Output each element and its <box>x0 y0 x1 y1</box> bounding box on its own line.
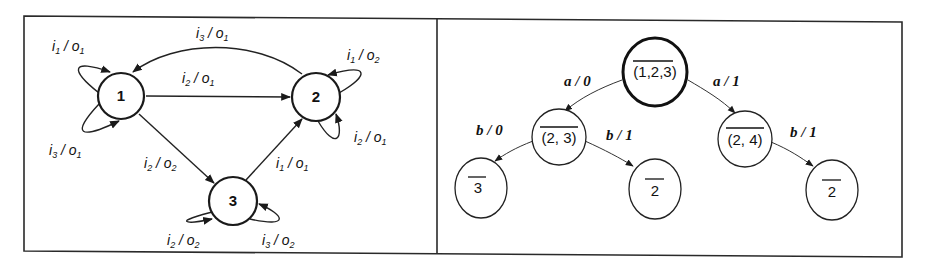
edge-2-to-1 <box>133 48 302 75</box>
edge-label-i2-o1-loop2: i2 / o1 <box>354 129 387 147</box>
edge-label-i1-o1-3to2: i1 / o1 <box>276 155 309 173</box>
edge-label-i2-o2-loop3: i2 / o2 <box>167 232 200 250</box>
tree-edge-label-b1-right: b / 1 <box>790 124 817 140</box>
edge-label-i3-o1-2to1: i3 / o1 <box>196 25 229 43</box>
state-node-1: 1 <box>98 73 144 119</box>
tree-edge-label-a0: a / 0 <box>564 73 591 89</box>
edge-label-i1-o2-loop2: i1 / o2 <box>347 47 380 65</box>
edge-label-i2-o2-1to3: i2 / o2 <box>144 155 177 173</box>
tree-edge-24-to-2b <box>771 142 813 166</box>
edge-label-i2-o1-1to2: i2 / o1 <box>182 70 215 88</box>
state-node-2: 2 <box>292 73 340 121</box>
edge-label-i1-o1-loop1: i1 / o1 <box>52 38 85 56</box>
tree-edge-label-b1-left: b / 1 <box>606 127 633 143</box>
edge-label-i3-o1-loop1: i3 / o1 <box>49 142 82 160</box>
tree-leaf-2b-label: 2 <box>828 183 836 200</box>
state-node-3: 3 <box>209 177 257 225</box>
edge-1-to-2 <box>146 96 290 97</box>
tree-edge-23-to-3 <box>495 141 533 161</box>
tree-node-2-3-label: (2, 3) <box>541 129 576 146</box>
figure-canvas: 1 2 3 i1 / o1 i3 / o1 i2 / o1 i3 / o1 i1… <box>0 0 925 272</box>
state-label-3: 3 <box>229 192 237 209</box>
tree-leaf-2b: 2 <box>806 160 858 220</box>
tree-leaf-3: 3 <box>455 158 507 218</box>
tree-leaf-2a-label: 2 <box>651 182 659 199</box>
distinguishing-tree: (1,2,3) (2, 3) (2, 4) 3 2 <box>455 38 858 220</box>
tree-node-root: (1,2,3) <box>623 38 687 106</box>
state-label-2: 2 <box>312 88 320 105</box>
tree-leaf-3-label: 3 <box>474 179 482 196</box>
tree-node-2-3: (2, 3) <box>532 109 586 165</box>
tree-node-root-label: (1,2,3) <box>633 63 676 80</box>
tree-edge-label-b0: b / 0 <box>476 122 503 138</box>
edge-label-i3-o2-loop3: i3 / o2 <box>262 232 295 250</box>
tree-node-2-4-label: (2, 4) <box>727 131 762 148</box>
tree-leaf-2a: 2 <box>629 159 681 219</box>
fsm-diagram: 1 2 3 i1 / o1 i3 / o1 i2 / o1 i3 / o1 i1… <box>49 25 387 250</box>
tree-edge-label-a1: a / 1 <box>713 73 740 89</box>
tree-edge-23-to-2a <box>585 141 633 166</box>
tree-node-2-4: (2, 4) <box>718 111 772 167</box>
state-label-1: 1 <box>117 87 125 104</box>
